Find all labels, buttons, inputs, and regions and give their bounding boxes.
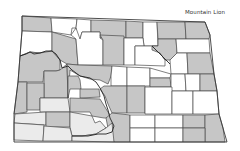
county-cass[interactable]	[193, 91, 219, 114]
county-walsh[interactable]	[176, 39, 210, 53]
county-mcintosh[interactable]	[130, 128, 155, 142]
county-divide[interactable]	[22, 16, 52, 32]
county-ransom[interactable]	[183, 115, 205, 128]
county-stutsman[interactable]	[145, 87, 172, 114]
county-map	[0, 0, 240, 151]
county-steele[interactable]	[185, 74, 200, 91]
county-cavalier[interactable]	[157, 22, 186, 39]
county-foster[interactable]	[150, 78, 171, 87]
county-sargent[interactable]	[183, 128, 205, 142]
county-lamoure[interactable]	[155, 115, 183, 128]
county-barnes[interactable]	[172, 91, 193, 114]
county-eddy[interactable]	[150, 68, 171, 78]
county-bowman[interactable]	[14, 123, 44, 141]
county-richland[interactable]	[205, 114, 225, 142]
county-rolette[interactable]	[126, 21, 143, 38]
county-griggs[interactable]	[171, 74, 186, 91]
counties	[14, 16, 225, 142]
county-dickey[interactable]	[155, 128, 183, 142]
county-kidder[interactable]	[127, 86, 145, 113]
county-stark[interactable]	[40, 98, 70, 112]
county-towner[interactable]	[143, 22, 158, 46]
county-grand-forks[interactable]	[187, 53, 214, 74]
county-mchenry[interactable]	[100, 35, 124, 65]
county-oliver[interactable]	[80, 89, 100, 98]
county-hettinger[interactable]	[46, 112, 70, 127]
county-wells[interactable]	[127, 67, 150, 86]
county-sheridan[interactable]	[111, 66, 127, 86]
county-mercer[interactable]	[68, 76, 81, 98]
county-logan[interactable]	[130, 115, 155, 128]
county-adams[interactable]	[43, 126, 72, 141]
